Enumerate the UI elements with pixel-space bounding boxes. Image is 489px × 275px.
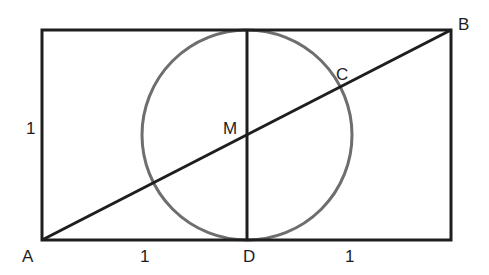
label-c: C — [336, 65, 348, 84]
label-d: D — [243, 247, 255, 266]
geometry-diagram: A B C D M 1 1 1 — [0, 0, 489, 275]
diagram-svg: A B C D M 1 1 1 — [0, 0, 489, 275]
label-b: B — [458, 15, 469, 34]
length-left-side: 1 — [26, 119, 35, 138]
label-m: M — [223, 119, 237, 138]
label-a: A — [22, 247, 34, 266]
length-bottom-left: 1 — [140, 247, 149, 266]
length-bottom-right: 1 — [345, 247, 354, 266]
